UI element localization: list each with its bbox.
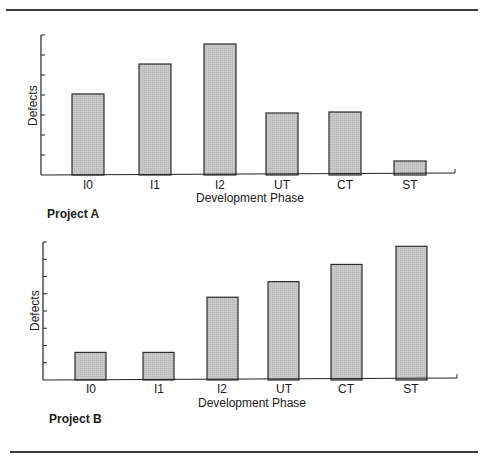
y-axis-label: Defects [28,290,42,331]
x-tick-label: UT [276,382,292,396]
x-tick-label: ST [403,382,418,396]
x-tick-label: CT [338,382,354,396]
x-tick-label: I0 [86,382,96,396]
bottom-rule [10,451,478,453]
bar-i0 [75,352,106,380]
bar-i1 [143,352,174,380]
chart-caption: Project B [49,412,102,426]
bar-ct [331,264,362,380]
x-tick-label: I1 [154,382,164,396]
bar-st [396,246,427,380]
bar-ut [268,282,299,380]
x-tick-label: I2 [217,382,227,396]
x-axis-label: Development Phase [198,396,306,410]
bar-i2 [207,297,238,380]
chart-project-b: Defects I0 I1 I2 UT CT ST Development Ph… [0,0,488,457]
